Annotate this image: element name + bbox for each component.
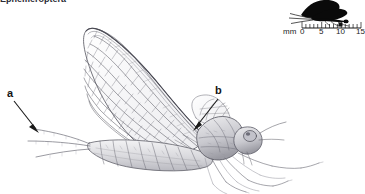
arrowhead-a <box>29 124 39 133</box>
mayfly-body-group <box>28 28 323 194</box>
scale-tick-5: 5 <box>319 28 323 36</box>
label-a: a <box>7 88 13 99</box>
cerci-tails <box>28 129 90 158</box>
scale-tick-10: 10 <box>336 28 345 36</box>
label-b: b <box>215 85 222 96</box>
scale-tick-0: 0 <box>300 28 304 36</box>
scale-bar-group: mm 0 5 10 15 <box>283 0 365 42</box>
mayfly-figure: Ephemeroptera <box>0 0 365 194</box>
head <box>234 122 286 165</box>
compound-eye <box>244 131 257 142</box>
fore-wing <box>84 28 206 154</box>
scale-tick-15: 15 <box>356 28 365 36</box>
scale-unit-label: mm <box>283 28 296 36</box>
